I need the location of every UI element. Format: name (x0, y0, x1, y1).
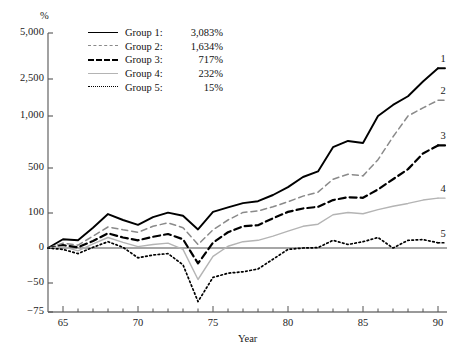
legend-item: Group 5: 15% (88, 80, 223, 94)
legend-value: 717% (177, 54, 223, 65)
y-axis-tick-label: −75 (0, 305, 44, 316)
series-end-label-5: 5 (435, 228, 451, 239)
series-end-label-1: 1 (435, 53, 451, 64)
y-axis-tick-label: 100 (0, 206, 44, 217)
x-axis-tick-label: 90 (424, 317, 452, 328)
series-end-label-2: 2 (435, 85, 451, 96)
legend-label: Group 1: (125, 27, 177, 38)
series-end-label-4: 4 (435, 183, 451, 194)
chart-figure: % Year Group 1: 3,083% Group 2: 1,634% G… (0, 0, 472, 362)
y-axis-tick-label: 500 (0, 161, 44, 172)
legend-item: Group 2: 1,634% (88, 40, 223, 54)
legend-value: 15% (177, 82, 223, 93)
y-axis-tick-label: 2,500 (0, 72, 44, 83)
y-axis-title: % (40, 10, 49, 21)
legend-label: Group 2: (125, 41, 177, 52)
series-line-2 (48, 100, 438, 248)
legend-item: Group 1: 3,083% (88, 26, 223, 40)
chart-plot-area (0, 0, 472, 362)
legend-swatch-group-3 (88, 54, 118, 66)
series-end-label-3: 3 (435, 130, 451, 141)
y-axis-tick-label: 1,000 (0, 109, 44, 120)
series-line-3 (48, 145, 438, 263)
y-axis-tick-label: 5,000 (0, 26, 44, 37)
legend-value: 1,634% (177, 41, 223, 52)
legend-item: Group 3: 717% (88, 53, 223, 67)
legend-swatch-group-2 (88, 40, 118, 52)
x-axis-tick-label: 75 (199, 317, 227, 328)
legend-item: Group 4: 232% (88, 67, 223, 81)
legend-label: Group 4: (125, 68, 177, 79)
x-axis-tick-label: 70 (124, 317, 152, 328)
series-line-5 (48, 238, 438, 302)
legend-label: Group 3: (125, 54, 177, 65)
legend-swatch-group-5 (88, 81, 118, 93)
chart-legend: Group 1: 3,083% Group 2: 1,634% Group 3:… (88, 26, 223, 94)
x-axis-title: Year (238, 333, 257, 344)
legend-label: Group 5: (125, 82, 177, 93)
legend-swatch-group-4 (88, 68, 118, 80)
legend-swatch-group-1 (88, 27, 118, 39)
x-axis-tick-label: 65 (49, 317, 77, 328)
legend-value: 3,083% (177, 27, 223, 38)
y-axis-tick-label: 0 (0, 241, 44, 252)
x-axis-tick-label: 85 (349, 317, 377, 328)
x-axis-tick-label: 80 (274, 317, 302, 328)
y-axis-tick-label: −50 (0, 276, 44, 287)
legend-value: 232% (177, 68, 223, 79)
